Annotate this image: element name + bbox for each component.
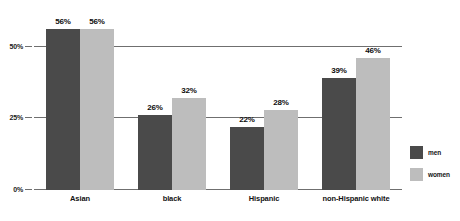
bar-chart: 50% 25% 0% 56% 56% bbox=[0, 0, 460, 221]
category-label-asian: Asian bbox=[34, 194, 126, 203]
bar-slot: 46% bbox=[356, 18, 390, 190]
ytick-label-0: 0% bbox=[13, 186, 23, 193]
bar-value-label: 32% bbox=[181, 86, 196, 95]
bar-group-non-hispanic-white: 39% 46% bbox=[310, 18, 402, 190]
bar-slot: 56% bbox=[46, 18, 80, 190]
bar-value-label: 39% bbox=[331, 66, 346, 75]
bar-group-hispanic: 22% 28% bbox=[218, 18, 310, 190]
tick-mark-25 bbox=[25, 117, 32, 118]
bar-asian-women[interactable]: 56% bbox=[80, 29, 114, 190]
bar-asian-men[interactable]: 56% bbox=[46, 29, 80, 190]
ytick-label-25: 25% bbox=[10, 114, 23, 121]
bar-non-hispanic-white-women[interactable]: 46% bbox=[356, 58, 390, 190]
bar-slot: 39% bbox=[322, 18, 356, 190]
bar-black-women[interactable]: 32% bbox=[172, 98, 206, 190]
category-label-non-hispanic-white: non-Hispanic white bbox=[310, 194, 402, 203]
category-label-hispanic: Hispanic bbox=[218, 194, 310, 203]
bar-value-label: 26% bbox=[147, 103, 162, 112]
tick-mark-50 bbox=[25, 46, 32, 47]
tick-mark-0 bbox=[25, 189, 32, 190]
bar-hispanic-men[interactable]: 22% bbox=[230, 127, 264, 190]
bar-slot: 32% bbox=[172, 18, 206, 190]
bar-black-men[interactable]: 26% bbox=[138, 115, 172, 190]
bar-value-label: 22% bbox=[239, 115, 254, 124]
bar-group-asian: 56% 56% bbox=[34, 18, 126, 190]
legend-item-women[interactable]: women bbox=[410, 168, 450, 181]
bar-value-label: 56% bbox=[89, 17, 104, 26]
legend-label-men: men bbox=[428, 149, 441, 156]
bar-hispanic-women[interactable]: 28% bbox=[264, 110, 298, 190]
legend-item-men[interactable]: men bbox=[410, 146, 450, 159]
bar-value-label: 46% bbox=[365, 46, 380, 55]
bar-slot: 56% bbox=[80, 18, 114, 190]
ytick-label-50: 50% bbox=[10, 42, 23, 49]
plot-area: 50% 25% 0% 56% 56% bbox=[34, 18, 402, 190]
bar-groups: 56% 56% 26% bbox=[34, 18, 402, 190]
legend: men women bbox=[410, 146, 450, 190]
legend-swatch-icon bbox=[410, 146, 423, 159]
bar-group-black: 26% 32% bbox=[126, 18, 218, 190]
x-axis-category-labels: Asian black Hispanic non-Hispanic white bbox=[34, 194, 402, 203]
category-label-black: black bbox=[126, 194, 218, 203]
legend-label-women: women bbox=[428, 171, 450, 178]
legend-swatch-icon bbox=[410, 168, 423, 181]
bar-non-hispanic-white-men[interactable]: 39% bbox=[322, 78, 356, 190]
bar-slot: 22% bbox=[230, 18, 264, 190]
bar-value-label: 28% bbox=[273, 98, 288, 107]
bar-value-label: 56% bbox=[55, 17, 70, 26]
bar-slot: 28% bbox=[264, 18, 298, 190]
bar-slot: 26% bbox=[138, 18, 172, 190]
